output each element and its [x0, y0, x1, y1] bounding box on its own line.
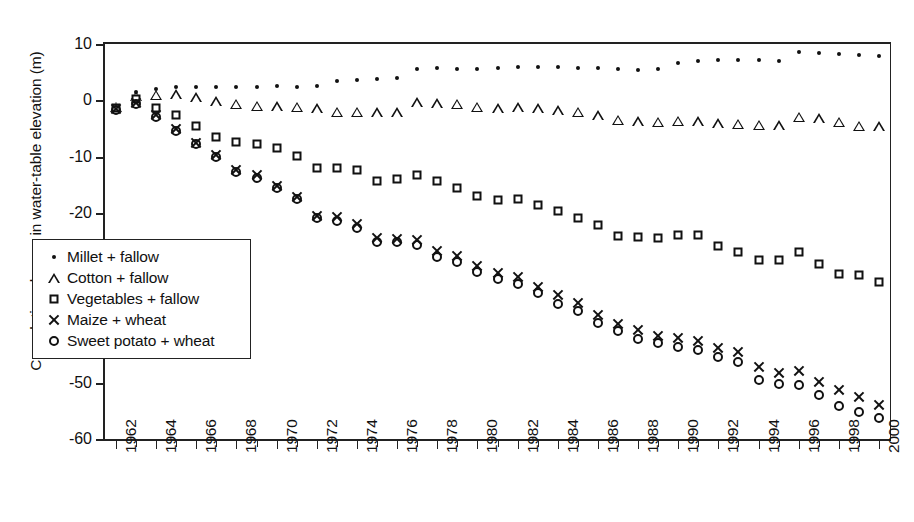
x-axis-tick — [277, 439, 278, 449]
data-point — [292, 194, 302, 204]
data-point — [793, 365, 805, 377]
data-point — [351, 107, 363, 117]
data-point — [814, 390, 824, 400]
data-point — [513, 279, 523, 289]
data-point — [335, 79, 339, 83]
x-axis-tick — [558, 439, 559, 449]
data-point — [455, 67, 459, 71]
y-axis-tick — [96, 213, 105, 215]
data-point — [275, 84, 279, 88]
data-point — [712, 118, 724, 128]
x-axis-tick — [176, 439, 177, 447]
data-point — [632, 116, 644, 126]
data-point — [654, 234, 663, 243]
x-axis-tick — [337, 439, 338, 447]
data-point — [536, 65, 540, 69]
data-point — [332, 216, 342, 226]
data-point — [754, 255, 763, 264]
data-point — [794, 380, 804, 390]
data-point — [773, 120, 785, 130]
data-point — [817, 51, 821, 55]
legend-marker-dot-icon — [41, 246, 67, 267]
data-point — [754, 375, 764, 385]
x-axis-tick — [397, 439, 398, 449]
data-point — [713, 352, 723, 362]
data-point — [813, 113, 825, 123]
data-point — [516, 65, 520, 69]
legend-marker-square-icon — [41, 288, 67, 309]
data-point — [231, 167, 241, 177]
x-axis-tick-label: 1974 — [363, 419, 381, 453]
data-point — [150, 90, 162, 100]
data-point — [452, 257, 462, 267]
x-axis-tick — [799, 439, 800, 449]
data-point — [475, 67, 479, 71]
data-point — [471, 102, 483, 112]
x-axis-tick — [357, 439, 358, 449]
x-axis-tick-label: 1996 — [805, 419, 823, 453]
x-axis-tick-label: 1976 — [403, 419, 421, 453]
x-axis-tick-label: 1972 — [323, 419, 341, 453]
x-axis-tick — [216, 439, 217, 447]
x-axis-tick-label: 1966 — [202, 419, 220, 453]
data-point — [392, 237, 402, 247]
circle-icon — [49, 336, 59, 346]
data-point — [170, 89, 182, 99]
data-point — [312, 164, 321, 173]
x-axis-tick — [819, 439, 820, 447]
data-point — [372, 237, 382, 247]
x-axis-tick — [498, 439, 499, 447]
data-point — [252, 140, 261, 149]
y-axis-tick-label: -20 — [69, 204, 92, 222]
data-point — [395, 76, 399, 80]
data-point — [692, 116, 704, 126]
data-point — [272, 143, 281, 152]
data-point — [373, 177, 382, 186]
data-point — [676, 61, 680, 65]
x-axis-tick-label: 1970 — [283, 419, 301, 453]
data-point — [672, 116, 684, 126]
data-point — [311, 103, 323, 113]
data-point — [513, 194, 522, 203]
data-point — [837, 52, 841, 56]
data-point — [451, 99, 463, 109]
data-point — [131, 99, 141, 109]
legend-label: Cotton + fallow — [67, 269, 168, 287]
legend-item: Cotton + fallow — [41, 267, 242, 288]
data-point — [854, 407, 864, 417]
data-point — [875, 278, 884, 287]
data-point — [473, 191, 482, 200]
data-point — [774, 255, 783, 264]
data-point — [433, 177, 442, 186]
data-point — [232, 137, 241, 146]
x-axis-tick — [538, 439, 539, 447]
x-icon — [48, 314, 60, 326]
data-point — [732, 119, 744, 129]
x-axis-tick-label: 1978 — [443, 419, 461, 453]
data-point — [512, 102, 524, 112]
data-point — [151, 112, 161, 122]
x-axis-tick — [678, 439, 679, 449]
legend-item: Sweet potato + wheat — [41, 330, 242, 351]
data-point — [793, 112, 805, 122]
data-point — [794, 247, 803, 256]
x-axis-tick — [718, 439, 719, 449]
x-axis-tick — [618, 439, 619, 447]
x-axis-tick — [457, 439, 458, 447]
data-point — [873, 399, 885, 411]
dot-icon — [52, 255, 56, 259]
data-point — [553, 207, 562, 216]
x-axis-tick-label: 1964 — [162, 419, 180, 453]
data-point — [352, 223, 362, 233]
x-axis-tick — [598, 439, 599, 449]
data-point — [251, 101, 263, 111]
data-point — [194, 85, 198, 89]
data-point — [331, 107, 343, 117]
data-point — [371, 107, 383, 117]
data-point — [271, 101, 283, 111]
data-point — [673, 342, 683, 352]
legend-marker-circle-icon — [41, 330, 67, 351]
x-axis-tick — [779, 439, 780, 447]
x-axis-tick — [698, 439, 699, 447]
data-point — [393, 174, 402, 183]
